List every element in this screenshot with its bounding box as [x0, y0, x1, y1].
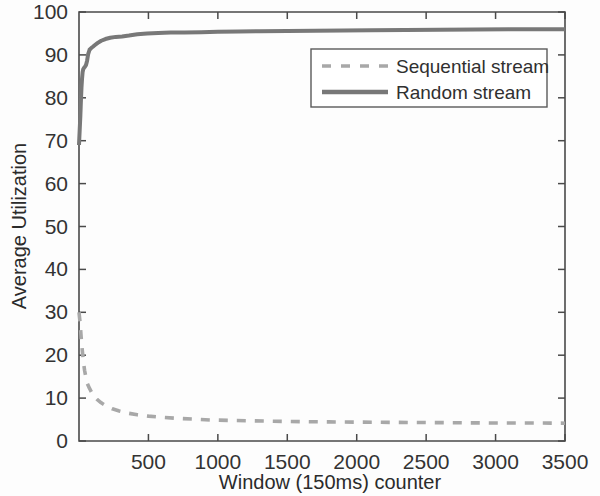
y-tick-label: 80	[45, 86, 68, 109]
x-tick-label: 2500	[403, 450, 450, 473]
y-tick-label: 90	[45, 43, 68, 66]
x-tick-label: 1000	[194, 450, 241, 473]
chart-canvas: 0102030405060708090100 50010001500200025…	[0, 0, 600, 496]
y-tick-label: 0	[56, 429, 68, 452]
y-tick-label: 70	[45, 129, 68, 152]
y-tick-label: 30	[45, 300, 68, 323]
y-tick-label: 60	[45, 172, 68, 195]
y-tick-label: 10	[45, 386, 68, 409]
x-axis-tick-labels: 500100015002000250030003500	[131, 450, 588, 473]
series-1-line	[79, 312, 565, 423]
y-tick-label: 20	[45, 343, 68, 366]
chart-legend: Sequential streamRandom stream	[311, 49, 549, 107]
x-axis-title: Window (150ms) counter	[219, 471, 442, 493]
y-axis-tick-labels: 0102030405060708090100	[33, 0, 68, 452]
y-tick-label: 100	[33, 0, 68, 23]
y-tick-label: 50	[45, 215, 68, 238]
y-axis-title: Average Utilization	[8, 143, 30, 309]
x-tick-label: 1500	[264, 450, 311, 473]
y-tick-label: 40	[45, 257, 68, 280]
x-tick-label: 500	[131, 450, 166, 473]
x-tick-label: 3000	[472, 450, 519, 473]
chart-figure: 0102030405060708090100 50010001500200025…	[0, 0, 600, 496]
legend-label-2: Random stream	[396, 82, 531, 103]
legend-label-1: Sequential stream	[396, 56, 549, 77]
x-tick-label: 2000	[333, 450, 380, 473]
x-tick-label: 3500	[542, 450, 589, 473]
